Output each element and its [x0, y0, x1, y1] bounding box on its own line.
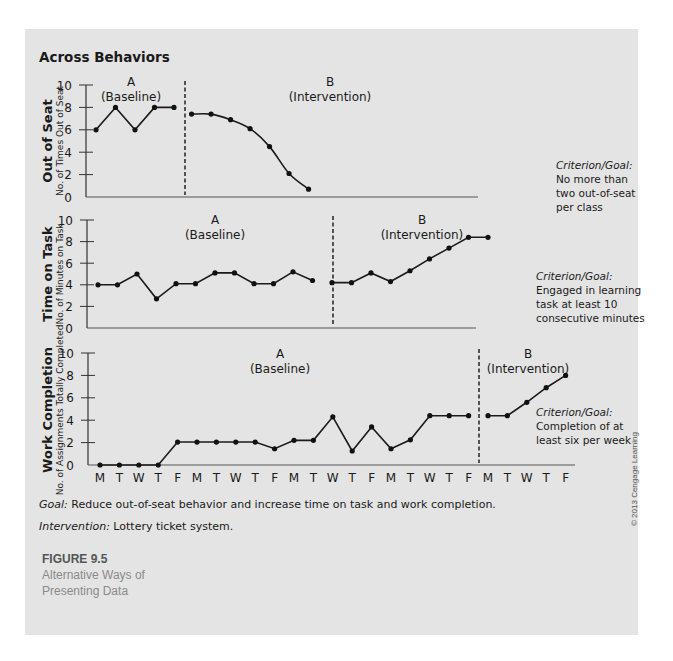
- data-point: [329, 280, 334, 285]
- data-point: [117, 462, 122, 467]
- data-point: [193, 281, 198, 286]
- goal-line: Goal: Reduce out-of-seat behavior and in…: [39, 498, 496, 511]
- data-point: [408, 437, 413, 442]
- data-point: [247, 126, 252, 131]
- data-point: [173, 281, 178, 286]
- figure-caption-line2: Presenting Data: [42, 584, 128, 598]
- phase-name: (Baseline): [250, 362, 310, 376]
- x-tick-label: T: [542, 471, 551, 485]
- phase-letter: B: [524, 347, 532, 361]
- x-tick-label: T: [154, 471, 163, 485]
- data-point: [171, 105, 176, 110]
- x-tick-label: F: [562, 471, 569, 485]
- intervention-label: Intervention:: [39, 520, 110, 533]
- data-point: [271, 281, 276, 286]
- y-tick-label: 0: [65, 322, 73, 336]
- data-point: [290, 269, 295, 274]
- criterion-text: Completion of at: [536, 420, 624, 432]
- data-point: [156, 462, 161, 467]
- phase-name: (Intervention): [289, 90, 372, 104]
- y-axis-title: Work Completion: [40, 347, 55, 473]
- data-point: [368, 270, 373, 275]
- criterion-text: least six per week: [536, 434, 632, 446]
- goal-text: Reduce out-of-seat behavior and increase…: [68, 498, 496, 511]
- data-point: [212, 270, 217, 275]
- criterion-label: Criterion/Goal:: [536, 270, 612, 282]
- x-tick-label: W: [230, 471, 242, 485]
- data-point: [214, 439, 219, 444]
- x-tick-label: T: [115, 471, 124, 485]
- intervention-text: Lottery ticket system.: [110, 520, 233, 533]
- data-point: [175, 439, 180, 444]
- x-tick-label: W: [327, 471, 339, 485]
- data-point: [407, 268, 412, 273]
- y-tick-label: 0: [64, 191, 72, 205]
- x-tick-label: T: [445, 471, 454, 485]
- y-tick-label: 6: [66, 391, 74, 405]
- x-tick-label: F: [174, 471, 181, 485]
- y-axis-title: Time on Task: [40, 226, 55, 322]
- x-tick-label: W: [424, 471, 436, 485]
- data-point: [466, 413, 471, 418]
- x-tick-label: T: [348, 471, 357, 485]
- chart-3: 0246810Work CompletionNo. of Assignments…: [40, 325, 632, 496]
- x-tick-label: M: [192, 471, 202, 485]
- x-tick-label: T: [503, 471, 512, 485]
- data-point: [253, 439, 258, 444]
- y-axis-subtitle: No. of Minutes on Task: [55, 223, 65, 325]
- phase-name: (Intervention): [487, 362, 570, 376]
- series-line: [100, 416, 469, 465]
- figure-number: FIGURE 9.5: [42, 552, 108, 566]
- data-point: [427, 256, 432, 261]
- data-point: [291, 438, 296, 443]
- data-point: [152, 105, 157, 110]
- series-line: [98, 272, 313, 299]
- data-point: [97, 462, 102, 467]
- x-tick-label: M: [386, 471, 396, 485]
- data-point: [228, 117, 233, 122]
- phase-name: (Baseline): [185, 228, 245, 242]
- data-point: [154, 296, 159, 301]
- y-tick-label: 0: [66, 459, 74, 473]
- criterion-text: task at least 10: [536, 298, 617, 310]
- data-point: [349, 280, 354, 285]
- data-point: [115, 282, 120, 287]
- y-tick-label: 8: [64, 101, 72, 115]
- y-tick-label: 4: [66, 414, 74, 428]
- data-point: [134, 271, 139, 276]
- y-tick-label: 4: [64, 146, 72, 160]
- data-point: [232, 270, 237, 275]
- criterion-text: Engaged in learning: [536, 284, 641, 296]
- y-axis-title: Out of Seat: [40, 99, 55, 182]
- data-point: [233, 439, 238, 444]
- data-point: [267, 144, 272, 149]
- data-point: [306, 187, 311, 192]
- data-point: [136, 462, 141, 467]
- x-tick-label: M: [289, 471, 299, 485]
- phase-letter: B: [326, 75, 334, 89]
- y-tick-label: 4: [65, 278, 73, 292]
- data-point: [286, 171, 291, 176]
- y-tick-label: 2: [64, 168, 72, 182]
- figure-heading: Across Behaviors: [39, 49, 170, 65]
- criterion-label: Criterion/Goal:: [556, 159, 632, 171]
- series-line: [332, 237, 488, 282]
- charts-layer: 0246810Out of SeatNo. of Times Out of Se…: [40, 75, 645, 495]
- data-point: [446, 245, 451, 250]
- x-tick-label: W: [133, 471, 145, 485]
- figure-charts: Across Behaviors 0246810Out of SeatNo. o…: [0, 0, 673, 661]
- data-point: [189, 112, 194, 117]
- data-point: [388, 446, 393, 451]
- intervention-line: Intervention: Lottery ticket system.: [39, 520, 233, 533]
- phase-letter: B: [418, 213, 426, 227]
- series-line: [192, 114, 309, 189]
- data-point: [208, 112, 213, 117]
- y-tick-label: 2: [66, 436, 74, 450]
- x-tick-label: T: [406, 471, 415, 485]
- data-point: [524, 400, 529, 405]
- data-point: [251, 281, 256, 286]
- data-point: [310, 278, 315, 283]
- y-axis-subtitle: No. of Times Out of Seat: [55, 86, 65, 196]
- criterion-text: two out-of-seat: [556, 187, 635, 199]
- data-point: [485, 413, 490, 418]
